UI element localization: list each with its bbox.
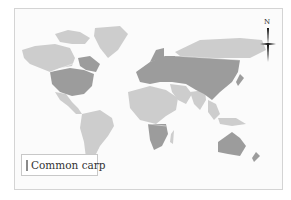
map-legend: Common carp xyxy=(21,154,98,176)
north-label: N xyxy=(264,18,270,26)
legend-label: Common carp xyxy=(31,159,106,171)
north-arrow: N xyxy=(258,18,278,63)
legend-swatch-common-carp xyxy=(26,160,28,171)
